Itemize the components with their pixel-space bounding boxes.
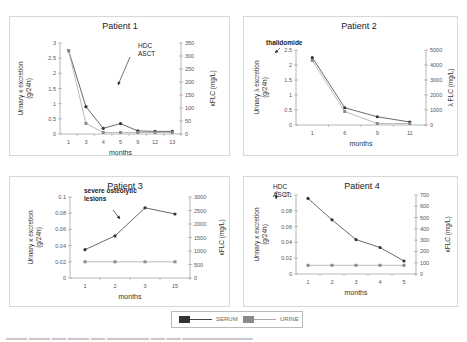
svg-text:0.5: 0.5 <box>48 116 56 122</box>
svg-text:500: 500 <box>420 215 429 221</box>
svg-text:1: 1 <box>311 130 314 136</box>
svg-text:13: 13 <box>169 139 175 145</box>
svg-text:3: 3 <box>84 139 87 145</box>
chart-panel-patient-1: Patient 100.511.522.53050100150200250300… <box>9 16 230 156</box>
svg-text:12: 12 <box>152 139 158 145</box>
svg-text:(g/24h): (g/24h) <box>35 227 43 248</box>
svg-text:100: 100 <box>420 260 429 266</box>
svg-text:0: 0 <box>194 275 197 281</box>
svg-text:ASCT: ASCT <box>138 50 155 57</box>
svg-text:9: 9 <box>136 139 139 145</box>
urine-swatch <box>243 316 254 323</box>
chart-patient-3: Patient 300.020.040.060.080.105001000150… <box>10 177 231 308</box>
svg-text:11: 11 <box>407 130 413 136</box>
svg-text:50: 50 <box>185 118 191 124</box>
svg-text:months: months <box>345 289 368 296</box>
svg-text:2: 2 <box>330 279 333 285</box>
svg-text:350: 350 <box>185 40 194 46</box>
svg-text:5: 5 <box>402 279 405 285</box>
svg-text:lesions: lesions <box>84 195 107 202</box>
svg-text:Patient 2: Patient 2 <box>341 21 377 31</box>
svg-text:Urinary κ excretion: Urinary κ excretion <box>17 61 25 116</box>
svg-text:400: 400 <box>420 226 429 232</box>
svg-text:1: 1 <box>289 92 292 98</box>
svg-text:0.04: 0.04 <box>281 239 292 245</box>
svg-text:1000: 1000 <box>194 248 206 254</box>
svg-text:6: 6 <box>343 130 346 136</box>
svg-text:0.08: 0.08 <box>281 208 292 214</box>
svg-text:λ FLC (mg/L): λ FLC (mg/L) <box>447 69 455 107</box>
svg-text:700: 700 <box>420 192 429 198</box>
svg-text:Patient 4: Patient 4 <box>344 181 380 191</box>
svg-text:2: 2 <box>113 283 116 289</box>
svg-text:500: 500 <box>194 262 203 268</box>
svg-text:1: 1 <box>53 101 56 107</box>
svg-text:3000: 3000 <box>194 194 206 200</box>
svg-text:3000: 3000 <box>430 77 442 83</box>
svg-text:9: 9 <box>376 130 379 136</box>
svg-text:0: 0 <box>63 275 66 281</box>
svg-text:2: 2 <box>53 70 56 76</box>
svg-text:0.1: 0.1 <box>58 194 66 200</box>
svg-text:severe osteolytic: severe osteolytic <box>84 187 137 195</box>
svg-text:months: months <box>119 293 142 300</box>
svg-text:5: 5 <box>119 139 122 145</box>
svg-text:0.08: 0.08 <box>55 210 66 216</box>
svg-text:(g/24h): (g/24h) <box>25 78 33 99</box>
svg-text:2000: 2000 <box>194 221 206 227</box>
svg-text:(g/24h): (g/24h) <box>261 224 269 245</box>
svg-text:0: 0 <box>185 131 188 137</box>
svg-text:4: 4 <box>102 139 105 145</box>
svg-text:0.02: 0.02 <box>281 255 292 261</box>
chart-panel-patient-4: Patient 400.020.040.060.080.101002003004… <box>243 176 458 307</box>
svg-text:4000: 4000 <box>430 62 442 68</box>
svg-text:HDC: HDC <box>273 183 287 190</box>
svg-text:600: 600 <box>420 203 429 209</box>
svg-text:300: 300 <box>420 237 429 243</box>
svg-text:1.5: 1.5 <box>284 77 292 83</box>
svg-text:2: 2 <box>289 62 292 68</box>
svg-text:3: 3 <box>143 283 146 289</box>
svg-text:Patient 1: Patient 1 <box>102 21 138 31</box>
figure-caption-cut-off: ▬▬▬ ▬▬▬ ▬▬ ▬▬▬ ▬▬ ▬▬▬▬▬▬ ▬▬ ▬▬ ▬▬▬▬▬▬▬▬▬… <box>6 334 461 342</box>
svg-text:4: 4 <box>378 279 381 285</box>
svg-text:2500: 2500 <box>194 208 206 214</box>
svg-text:250: 250 <box>185 66 194 72</box>
svg-text:1000: 1000 <box>430 107 442 113</box>
svg-text:κFLC (mg/L): κFLC (mg/L) <box>218 219 226 255</box>
svg-text:2.5: 2.5 <box>48 55 56 61</box>
svg-text:150: 150 <box>185 92 194 98</box>
svg-text:200: 200 <box>420 248 429 254</box>
chart-legend: SERUM URINE <box>171 311 303 328</box>
svg-text:HDC: HDC <box>138 42 152 49</box>
svg-text:κFLC (mg/L): κFLC (mg/L) <box>209 70 217 106</box>
svg-text:months: months <box>350 140 373 147</box>
svg-text:0.06: 0.06 <box>281 224 292 230</box>
svg-text:1: 1 <box>306 279 309 285</box>
svg-text:0: 0 <box>430 122 433 128</box>
serum-line-sample <box>190 319 212 320</box>
svg-text:0.06: 0.06 <box>55 226 66 232</box>
svg-text:2.5: 2.5 <box>284 47 292 53</box>
urine-line-sample <box>254 319 276 320</box>
chart-patient-1: Patient 100.511.522.53050100150200250300… <box>10 17 231 157</box>
svg-text:κFLC (mg/L): κFLC (mg/L) <box>444 216 452 252</box>
svg-text:5000: 5000 <box>430 47 442 53</box>
svg-text:thalidomide: thalidomide <box>266 39 303 46</box>
svg-text:1.5: 1.5 <box>48 86 56 92</box>
svg-text:0.5: 0.5 <box>284 107 292 113</box>
svg-text:200: 200 <box>185 79 194 85</box>
svg-text:Urinary κ excretion: Urinary κ excretion <box>253 207 261 262</box>
svg-text:0: 0 <box>420 271 423 277</box>
svg-text:0: 0 <box>289 122 292 128</box>
svg-text:15: 15 <box>172 283 178 289</box>
svg-text:0.04: 0.04 <box>55 243 66 249</box>
svg-text:(g/24h): (g/24h) <box>261 77 269 98</box>
svg-text:100: 100 <box>185 105 194 111</box>
svg-text:Urinary κ excretion: Urinary κ excretion <box>27 210 35 265</box>
svg-text:300: 300 <box>185 53 194 59</box>
chart-patient-4: Patient 400.020.040.060.080.101002003004… <box>244 177 459 308</box>
svg-text:3: 3 <box>53 40 56 46</box>
serum-label: SERUM <box>216 316 238 322</box>
svg-text:2000: 2000 <box>430 92 442 98</box>
